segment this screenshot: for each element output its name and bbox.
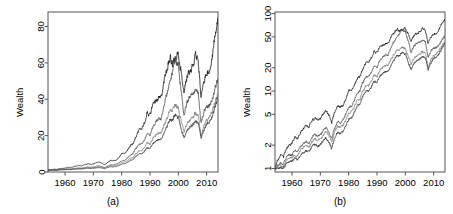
y-tick-label: 40	[36, 94, 47, 105]
x-tick-label: 1980	[338, 177, 359, 188]
x-tick-label: 1990	[366, 177, 387, 188]
data-line-series-3	[48, 94, 218, 171]
data-line-series-3	[275, 42, 445, 169]
x-tick-label: 1970	[310, 177, 331, 188]
panel-caption-b: (b)	[227, 196, 453, 207]
x-tick-label: 2000	[395, 177, 416, 188]
plot-area-b: 196019701980199020002010125102050100	[227, 0, 453, 214]
panel-a: Wealth 196019701980199020002010020406080…	[0, 0, 226, 214]
y-tick-label: 50	[263, 32, 274, 43]
data-line-series-4	[48, 97, 218, 170]
data-line-series-2	[48, 59, 218, 170]
y-tick-label: 80	[36, 21, 47, 32]
y-tick-label: 0	[36, 169, 47, 174]
x-tick-label: 1980	[111, 177, 132, 188]
x-tick-label: 2000	[168, 177, 189, 188]
figure-two-panel-wealth: Wealth 196019701980199020002010020406080…	[0, 0, 453, 214]
x-tick-label: 2010	[423, 177, 444, 188]
y-tick-label: 100	[263, 6, 274, 22]
x-tick-label: 2010	[196, 177, 217, 188]
x-tick-label: 1970	[83, 177, 104, 188]
y-tick-label: 1	[263, 166, 274, 171]
y-tick-label: 20	[263, 62, 274, 73]
plot-area-a: 196019701980199020002010020406080	[0, 0, 226, 214]
x-tick-label: 1960	[281, 177, 302, 188]
panel-b: Wealth 196019701980199020002010125102050…	[227, 0, 453, 214]
x-tick-label: 1960	[54, 177, 75, 188]
y-tick-label: 20	[36, 130, 47, 141]
panel-caption-a: (a)	[0, 196, 226, 207]
y-tick-label: 5	[263, 112, 274, 117]
y-tick-label: 60	[36, 58, 47, 69]
y-tick-label: 2	[263, 143, 274, 148]
x-tick-label: 1990	[139, 177, 160, 188]
y-tick-label: 10	[263, 86, 274, 97]
